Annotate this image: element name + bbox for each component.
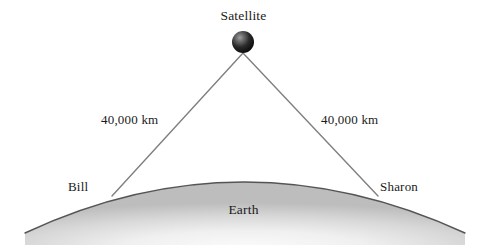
observer-label-bill: Bill bbox=[68, 179, 88, 195]
earth-label: Earth bbox=[0, 202, 487, 218]
satellite-sphere-icon bbox=[232, 31, 254, 53]
satellite-label: Satellite bbox=[0, 8, 487, 24]
distance-label-left: 40,000 km bbox=[101, 112, 158, 128]
distance-label-right: 40,000 km bbox=[321, 112, 378, 128]
observer-label-sharon: Sharon bbox=[380, 179, 418, 195]
satellite-earth-diagram: Satellite 40,000 km 40,000 km Bill Sharo… bbox=[0, 0, 487, 245]
